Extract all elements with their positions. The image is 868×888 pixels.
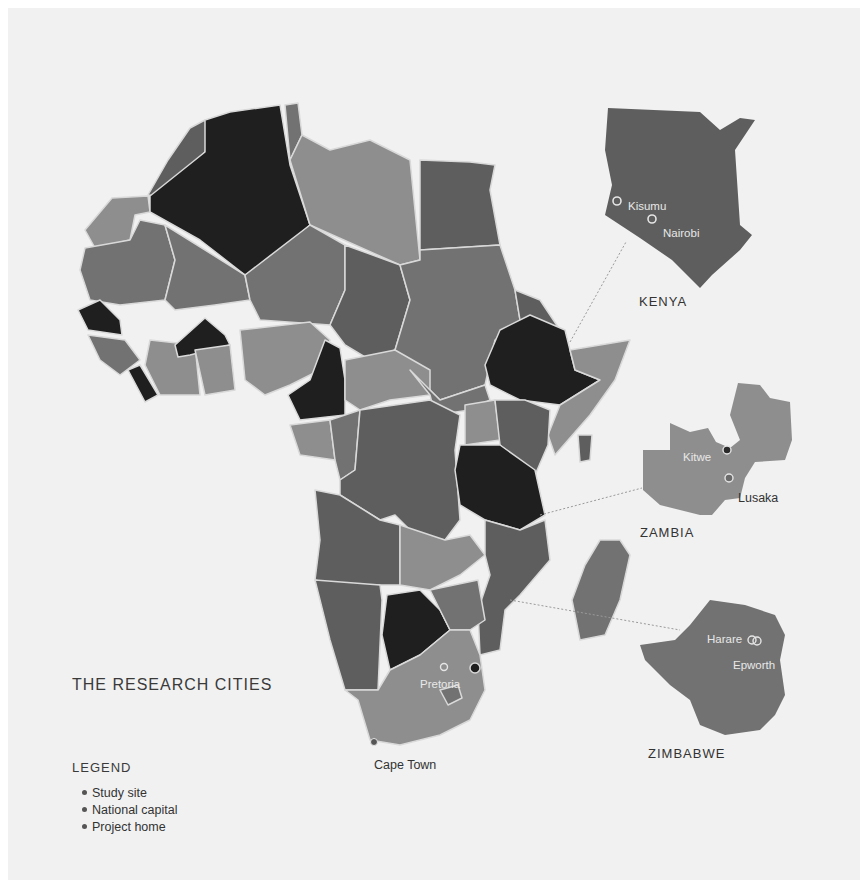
country-mozambique [478,520,550,655]
map-title: THE RESEARCH CITIES [72,676,272,694]
city-label-lusaka: Lusaka [738,491,778,505]
marker-cape-town [371,739,378,746]
marker-kitwe [723,446,731,454]
city-label-pretoria: Pretoria [420,678,460,690]
city-label-cape-town: Cape Town [374,758,436,772]
city-label-nairobi: Nairobi [663,227,699,239]
city-label-epworth: Epworth [733,659,775,671]
country-egypt [420,160,500,250]
city-label-kisumu: Kisumu [628,200,666,212]
map-frame: KENYA ZAMBIA ZIMBABWE Kisumu Nairobi Kit… [8,8,860,880]
connector-zambia [540,488,642,515]
country-ghana [195,345,235,395]
connector-kenya [570,242,626,342]
inset-kenya-shape [605,108,755,288]
country-madagascar [572,540,630,640]
country-gabon [290,420,335,460]
legend-item-study-site: Study site [82,784,177,801]
city-label-kitwe: Kitwe [683,451,711,463]
inset-title-zambia: ZAMBIA [640,525,694,540]
legend-heading: LEGEND [72,760,131,775]
legend-list: Study site National capital Project home [82,784,177,835]
country-uganda [465,400,500,445]
legend-item-national-capital: National capital [82,801,177,818]
marker-lusaka [725,474,733,482]
legend-item-project-home: Project home [82,818,177,835]
country-namibia [315,580,382,690]
bullet-icon [82,824,87,829]
africa-map [8,8,860,880]
bullet-icon [82,790,87,795]
country-senegal [78,300,122,335]
bullet-icon [82,807,87,812]
island [578,435,592,462]
inset-title-kenya: KENYA [639,294,687,309]
country-eswatini [470,663,480,673]
inset-title-zimbabwe: ZIMBABWE [648,746,725,761]
city-label-harare: Harare [707,633,742,645]
